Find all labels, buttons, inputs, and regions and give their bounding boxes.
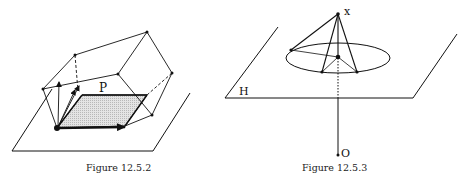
label-o: O xyxy=(341,147,350,160)
cone-edges xyxy=(291,14,357,72)
label-x: x xyxy=(344,5,351,18)
figure-12-5-2: P Figure 12.5.2 xyxy=(12,31,190,174)
center-dot xyxy=(336,55,341,60)
caption-figure-12-5-2: Figure 12.5.2 xyxy=(86,162,151,173)
figures-canvas: P Figure 12.5.2 xyxy=(0,0,470,174)
label-p: P xyxy=(99,81,107,95)
apex-dot xyxy=(336,12,340,16)
label-h: H xyxy=(239,85,249,98)
origin-dot xyxy=(54,125,60,131)
origin-o-dot xyxy=(337,154,340,157)
figure-12-5-3: x H O Figure 12.5.3 xyxy=(225,5,457,173)
caption-figure-12-5-3: Figure 12.5.3 xyxy=(302,162,367,173)
plane-h-outline xyxy=(225,27,457,98)
vertical-vector-arrow xyxy=(58,82,59,127)
hidden-edges xyxy=(75,55,172,95)
base-vector-arrow xyxy=(57,127,125,128)
